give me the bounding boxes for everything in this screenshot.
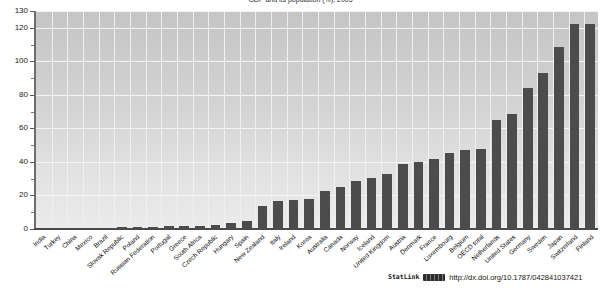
bar-united-states[interactable] [507, 114, 517, 229]
chart-title: GDP and its population (%), 2005 [0, 0, 601, 4]
y-tick-label-20: 20 [19, 191, 28, 199]
bar-cell [457, 11, 473, 229]
bar-cell [395, 11, 411, 229]
bar-cell [192, 11, 208, 229]
bar-cell [145, 11, 161, 229]
bar-cell [411, 11, 427, 229]
bar-cell [582, 11, 598, 229]
bar-finland[interactable] [585, 24, 595, 229]
bar-cell [176, 11, 192, 229]
bar-oecd-total[interactable] [476, 149, 486, 229]
bar-italy[interactable] [273, 201, 283, 229]
bar-netherlands[interactable] [492, 120, 502, 229]
bar-united-kingdom[interactable] [382, 174, 392, 229]
bar-cell [348, 11, 364, 229]
bar-cell [504, 11, 520, 229]
y-tick-label-130: 130 [15, 7, 28, 15]
y-tick-label-80: 80 [19, 91, 28, 99]
bar-switzerland[interactable] [570, 24, 580, 229]
bar-cell [208, 11, 224, 229]
bar-canada[interactable] [336, 187, 346, 229]
bar-cell [317, 11, 333, 229]
bar-australia[interactable] [320, 191, 330, 229]
bar-japan[interactable] [554, 47, 564, 229]
bar-luxembourg[interactable] [445, 153, 455, 229]
bar-denmark[interactable] [414, 162, 424, 229]
bar-cell [536, 11, 552, 229]
bar-cell [223, 11, 239, 229]
bar-norway[interactable] [351, 181, 361, 229]
y-tick-label-60: 60 [19, 124, 28, 132]
bar-cell [333, 11, 349, 229]
bar-korea[interactable] [304, 199, 314, 229]
bar-cell [161, 11, 177, 229]
bar-sweden[interactable] [538, 73, 548, 229]
bar-cell [52, 11, 68, 229]
bar-belgium[interactable] [460, 150, 470, 229]
bar-france[interactable] [429, 159, 439, 229]
bar-germany[interactable] [523, 88, 533, 229]
y-tick-label-120: 120 [15, 24, 28, 32]
bar-iceland[interactable] [367, 178, 377, 229]
statlink-label: StatLink [388, 273, 419, 282]
barcode-icon [423, 274, 445, 281]
bar-cell [83, 11, 99, 229]
bar-cell [567, 11, 583, 229]
bar-cell [301, 11, 317, 229]
bar-cell [379, 11, 395, 229]
bar-cell [520, 11, 536, 229]
bar-cell [551, 11, 567, 229]
bar-cell [442, 11, 458, 229]
chart-figure: GDP and its population (%), 2005 0204060… [0, 0, 601, 292]
bar-ireland[interactable] [289, 200, 299, 229]
y-axis: 020406080100120130 [0, 0, 34, 240]
bar-cell [67, 11, 83, 229]
bar-new-zealand[interactable] [258, 206, 268, 229]
bar-cell [364, 11, 380, 229]
x-label-cell: Finland [582, 231, 598, 289]
bar-cell [98, 11, 114, 229]
y-tick-label-100: 100 [15, 57, 28, 65]
y-tick-label-40: 40 [19, 158, 28, 166]
statlink-url[interactable]: http://dx.doi.org/10.1787/042841037421 [449, 273, 582, 282]
x-axis-baseline [34, 228, 598, 230]
bar-cell [426, 11, 442, 229]
bar-cell [286, 11, 302, 229]
bar-series [36, 11, 598, 229]
plot-area [34, 11, 598, 229]
statlink-footer: StatLink http://dx.doi.org/10.1787/04284… [388, 273, 582, 282]
bar-cell [130, 11, 146, 229]
bar-cell [114, 11, 130, 229]
bar-cell [255, 11, 271, 229]
bar-austria[interactable] [398, 164, 408, 229]
bar-cell [473, 11, 489, 229]
bar-cell [270, 11, 286, 229]
bar-cell [36, 11, 52, 229]
y-tick-label-0: 0 [24, 225, 28, 233]
bar-cell [489, 11, 505, 229]
bar-cell [239, 11, 255, 229]
